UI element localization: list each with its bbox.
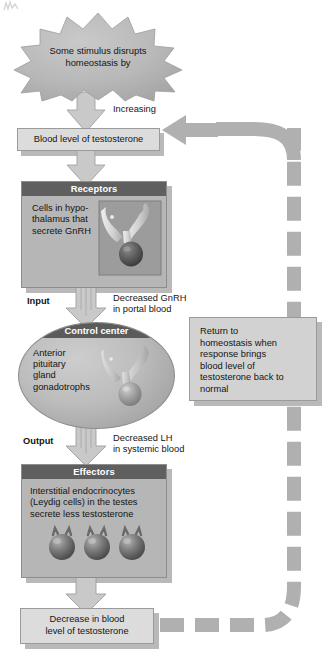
pituitary-gland-icon (101, 345, 159, 411)
return-text: Return to homeostasis when response brin… (200, 326, 310, 396)
return-box: Return to homeostasis when response brin… (189, 317, 317, 401)
blood-level-text: Blood level of testosterone (18, 134, 159, 146)
control-center-body-text: Anterior pituitary gland gonadotrophs (33, 348, 90, 393)
effectors-panel: Effectors Interstitial endocrinocytes (L… (21, 464, 167, 578)
control-center-header: Control center (19, 323, 174, 338)
feedback-arrow-head (160, 112, 222, 148)
effectors-header: Effectors (22, 465, 166, 479)
effectors-body-text: Interstitial endocrinocytes (Leydig cell… (30, 486, 137, 520)
diagram-canvas: Some stimulus disrupts homeostasis by In… (0, 0, 331, 653)
scan-artifact (3, 1, 20, 12)
output-note: Decreased LH in systemic blood (113, 433, 184, 456)
response-box: Decrease in blood level of testosterone (20, 608, 154, 644)
output-label: Output (23, 436, 53, 447)
receptors-body-text: Cells in hypo- thalamus that secrete GnR… (32, 203, 91, 237)
stimulus-text: Some stimulus disrupts homeostasis by (12, 45, 184, 69)
input-note: Decreased GnRH in portal blood (113, 293, 186, 316)
arrow-output-to-effectors (62, 424, 110, 468)
leydig-cells-icon (41, 526, 153, 570)
blood-level-box: Blood level of testosterone (17, 128, 160, 151)
hypothalamus-pituitary-icon (99, 201, 161, 275)
input-label: Input (27, 296, 50, 307)
receptors-panel: Receptors Cells in hypo- thalamus that s… (21, 181, 167, 288)
stimulus-starburst: Some stimulus disrupts homeostasis by (12, 12, 184, 102)
increasing-label: Increasing (113, 104, 156, 115)
receptors-header: Receptors (22, 182, 166, 196)
response-text: Decrease in blood level of testosterone (21, 614, 153, 637)
control-center-oval: Control center (18, 322, 175, 429)
